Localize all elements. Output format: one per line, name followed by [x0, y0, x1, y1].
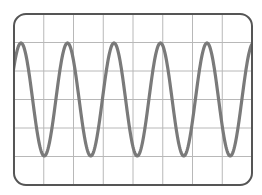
grid-lines [14, 14, 252, 185]
oscilloscope-screen [0, 0, 262, 195]
